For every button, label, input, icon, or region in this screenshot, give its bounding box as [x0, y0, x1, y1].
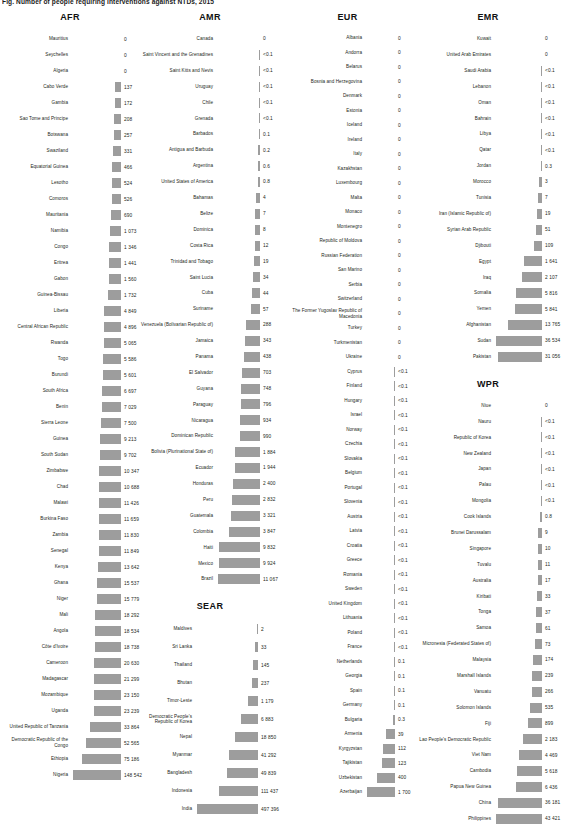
bar-row: Saudi Arabia<0.1 [415, 63, 561, 79]
bar-category-label: Monaco [280, 209, 365, 215]
bar-category-label: Belgium [280, 470, 365, 476]
bar-row: Algeria0 [0, 63, 140, 79]
bar-category-label: Saint Vincent and the Grenadines [140, 52, 216, 58]
bar-category-label: Mongolia [415, 498, 494, 504]
bar-category-label: New Zealand [415, 451, 494, 457]
bar-track [71, 658, 121, 668]
bar-track [71, 338, 121, 348]
bar-track [365, 135, 395, 145]
bar-row: Somalia5 816 [415, 285, 561, 301]
bar-row: France<0.1 [280, 640, 415, 655]
bar-row: Kyrgyzstan112 [280, 742, 415, 757]
bar [219, 542, 260, 552]
bar-category-label: Afghanistan [415, 322, 494, 328]
bar-row: Suriname57 [140, 301, 280, 317]
bar [95, 642, 121, 652]
bar-track [216, 384, 260, 394]
bar [517, 766, 542, 776]
bar-value-label: 0 [542, 52, 561, 57]
bar-category-label: Honduras [140, 481, 216, 487]
bar-row: Canada0 [140, 31, 280, 47]
bar-row: United Kingdom<0.1 [280, 597, 415, 612]
bar-row: Antigua and Barbuda0.2 [140, 142, 280, 158]
bar-category-label: Mauritania [0, 212, 71, 218]
bar-row: Peru2 832 [140, 492, 280, 508]
bar-row: Marshall Islands239 [415, 668, 561, 684]
bar-value-label: 19 [542, 211, 561, 216]
bar-track [365, 294, 395, 304]
bar-value-label: 174 [542, 657, 561, 662]
bar-category-label: Peru [140, 497, 216, 503]
bar [394, 555, 395, 565]
bar-row: Philippines43 421 [415, 811, 561, 827]
bar-track [365, 599, 395, 609]
bar-category-label: Lao People's Democratic Republic [415, 737, 494, 743]
bar-category-label: Tunisia [415, 195, 494, 201]
bar-category-label: Palau [415, 482, 494, 488]
bar-track [365, 236, 395, 246]
bar-category-label: Belize [140, 211, 216, 217]
bar-category-label: Jordan [415, 163, 494, 169]
bar-row: Guatemala3 321 [140, 508, 280, 524]
bar-category-label: Guyana [140, 386, 216, 392]
bar-track [71, 594, 121, 604]
bar-track [365, 77, 395, 87]
bar-value-label: 51 [542, 227, 561, 232]
bar-track [494, 655, 542, 665]
region-heading-amr: AMR [140, 12, 280, 22]
bar-value-label: <0.1 [542, 100, 561, 105]
bar-row: Central African Republic4 896 [0, 319, 140, 335]
bar-row: Cyprus<0.1 [280, 365, 415, 380]
bar [82, 754, 121, 764]
bar-category-label: Vanuatu [415, 689, 494, 695]
bar-category-label: Niger [0, 596, 71, 602]
bar-list-sear: Maldives2Sri Lanka33Thailand145Bhutan237… [140, 620, 280, 818]
bar-track [365, 613, 395, 623]
bar-row: Haiti9 832 [140, 540, 280, 556]
bar-category-label: Costa Rica [140, 243, 216, 249]
bar-category-label: United Kingdom [280, 601, 365, 607]
bar-category-label: Romania [280, 572, 365, 578]
bar-row: South Sudan9 702 [0, 447, 140, 463]
bar-track [216, 256, 260, 266]
bar-category-label: Kazakhstan [280, 166, 365, 172]
bar [109, 258, 121, 268]
bar-row: Tajikistan123 [280, 756, 415, 771]
bar-track [365, 773, 395, 783]
bar-row: Uganda23 239 [0, 703, 140, 719]
bar [253, 660, 258, 670]
bar-category-label: Burkina Faso [0, 516, 71, 522]
bar-value-label: 7 [542, 195, 561, 200]
bar-category-label: Niue [415, 403, 494, 409]
bar [95, 626, 121, 636]
bar-row: China36 181 [415, 795, 561, 811]
bar-category-label: Greece [280, 557, 365, 563]
bar-category-label: Myanmar [140, 752, 195, 758]
bar [394, 686, 396, 696]
bar-track [71, 370, 121, 380]
bar-row: Qatar<0.1 [415, 142, 561, 158]
bar-category-label: Croatia [280, 543, 365, 549]
bar-category-label: Japan [415, 466, 494, 472]
bar-track [494, 575, 542, 585]
bar-category-label: Netherlands [280, 659, 365, 665]
bar [248, 696, 258, 706]
bar-row: Iceland0 [280, 118, 415, 133]
bar-row: Grenada<0.1 [140, 110, 280, 126]
bar-category-label: Latvia [280, 528, 365, 534]
bar-category-label: Suriname [140, 306, 216, 312]
bar-category-label: South Sudan [0, 452, 71, 458]
bar-value-label: 73 [542, 642, 561, 647]
bar-track [71, 66, 121, 76]
bar [114, 130, 121, 140]
bar-track [365, 628, 395, 638]
bar-category-label: Brunei Darussalam [415, 530, 494, 536]
bar-category-label: Congo [0, 244, 71, 250]
bar [394, 671, 396, 681]
bar-category-label: Nicaragua [140, 418, 216, 424]
bar [86, 738, 121, 748]
bar-value-label: 31 056 [542, 354, 561, 359]
bar-row: Ireland0 [280, 133, 415, 148]
bar-row: Republic of Korea<0.1 [415, 429, 561, 445]
bar-track [71, 50, 121, 60]
